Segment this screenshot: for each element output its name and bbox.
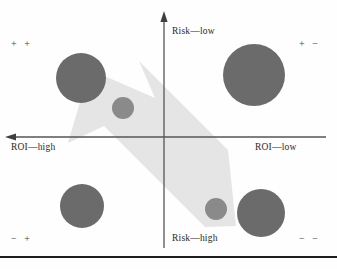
quadrant-label-bottom-right: − − — [299, 233, 320, 244]
quadrant-label-bottom-left: − + — [11, 233, 32, 244]
quadrant-label-top-right: + − — [299, 38, 320, 49]
axis-label-roi-high: ROI—high — [11, 142, 55, 152]
bubble-top-right-large — [223, 44, 285, 106]
quadrant-matrix-figure: Risk—low Risk—high ROI—high ROI—low + + … — [0, 0, 337, 269]
axis-lines — [0, 0, 337, 269]
axis-label-risk-low: Risk—low — [172, 26, 215, 36]
bubble-bottom-right — [237, 189, 285, 237]
bubble-top-left — [56, 53, 106, 103]
bottom-divider — [0, 256, 337, 258]
axis-label-risk-high: Risk—high — [172, 233, 218, 243]
bubble-bottom-small — [205, 198, 227, 220]
bubble-center-small — [112, 97, 134, 119]
vertical-axis-arrowhead — [160, 11, 167, 22]
bubble-bottom-left — [60, 184, 104, 228]
axis-label-roi-low: ROI—low — [255, 142, 297, 152]
horizontal-axis-arrowhead — [5, 133, 16, 140]
quadrant-label-top-left: + + — [11, 38, 32, 49]
